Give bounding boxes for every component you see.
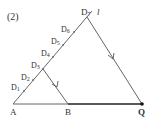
label-B: B [65,108,71,117]
point-D4 [52,56,54,58]
geometry-diagram [0,0,150,122]
segment-D7Q [87,17,142,104]
label-D5: D5 [51,38,60,46]
arrow-icon-d3b [52,81,58,87]
arrow-icon-d7q [108,53,114,59]
point-D6 [73,31,75,33]
point-Q [140,102,144,106]
label-D4: D4 [41,50,50,58]
label-Q: Q [138,108,145,117]
point-D3 [42,68,44,70]
point-D2 [32,79,34,81]
label-A: A [10,108,17,117]
label-line-l: l [97,8,100,17]
label-D2: D2 [21,74,30,82]
problem-label: (2) [7,12,19,22]
point-D1 [23,90,25,92]
point-D5 [62,44,64,46]
label-D6: D6 [61,26,70,34]
label-D3: D3 [31,62,40,70]
label-D1: D1 [11,84,20,92]
label-D7: D7 [81,8,91,17]
